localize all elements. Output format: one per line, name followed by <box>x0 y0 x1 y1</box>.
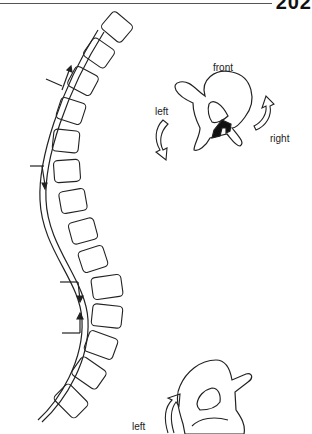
label-right: right <box>270 133 289 144</box>
vertebrae <box>52 10 134 419</box>
label-left-bottom: left <box>132 421 145 432</box>
label-left-top: left <box>155 106 168 117</box>
label-front: front <box>213 62 233 73</box>
vertebra-top-view <box>175 71 252 150</box>
spine-figure <box>0 0 312 434</box>
vertebra-bottom-view <box>177 360 251 434</box>
